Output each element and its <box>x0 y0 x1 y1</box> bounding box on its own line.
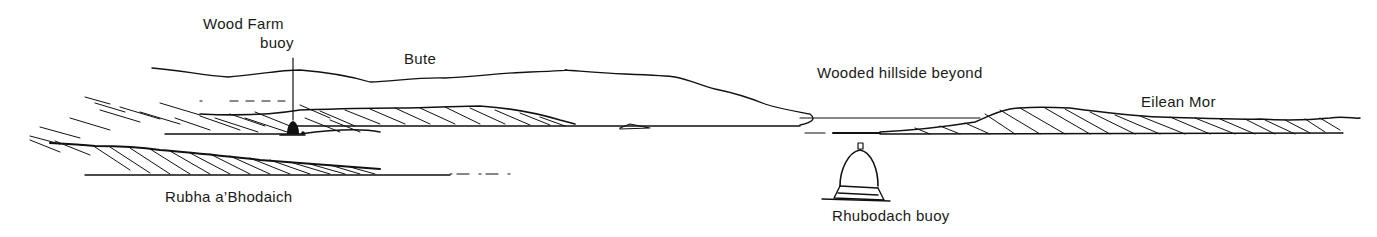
bute-shore <box>30 97 800 144</box>
bute-label: Bute <box>404 50 436 67</box>
eilean-mor-label: Eilean Mor <box>1141 93 1216 110</box>
wooded-hillside-label: Wooded hillside beyond <box>817 64 983 81</box>
bute-shore-hatching <box>30 97 565 144</box>
rubha-headland <box>30 140 510 175</box>
rhubodach-buoy-icon <box>822 143 890 201</box>
coastal-view-diagram: Wood Farm buoy Bute Wooded hillside beyo… <box>0 0 1377 237</box>
rubha-label: Rubha a’Bhodaich <box>165 188 292 205</box>
eilean-mor-island <box>800 107 1360 134</box>
wood-farm-label: Wood Farm <box>203 15 284 32</box>
wood-farm-buoy-label: buoy <box>260 34 294 51</box>
rhubodach-buoy-label: Rhubodach buoy <box>832 207 950 224</box>
bute-skyline <box>152 68 813 125</box>
